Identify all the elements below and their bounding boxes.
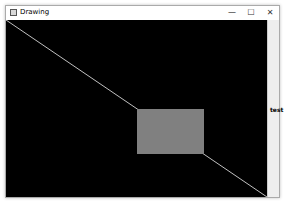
maximize-button[interactable]: ☐ — [242, 6, 260, 20]
canvas-graphics — [6, 20, 267, 197]
minimize-button[interactable]: — — [223, 6, 241, 20]
title-bar[interactable]: Drawing — ☐ ✕ — [6, 6, 279, 20]
close-button[interactable]: ✕ — [261, 6, 279, 20]
diagonal-line — [6, 20, 267, 197]
side-panel-label: test — [270, 106, 283, 113]
window-title: Drawing — [20, 8, 49, 17]
gray-rectangle — [137, 109, 204, 154]
drawing-canvas[interactable] — [6, 20, 267, 197]
drawing-window: Drawing — ☐ ✕ test — [5, 5, 280, 198]
app-icon — [10, 9, 17, 16]
